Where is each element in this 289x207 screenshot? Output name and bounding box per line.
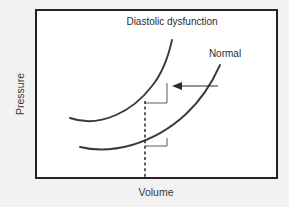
x-axis-label: Volume (138, 186, 173, 198)
plot-frame (36, 10, 277, 178)
figure-container: Pressure Volume Diastolic dysfunction No… (0, 0, 289, 207)
diastolic-dysfunction-label: Diastolic dysfunction (126, 16, 217, 27)
pressure-volume-chart: Pressure Volume Diastolic dysfunction No… (0, 0, 289, 207)
y-axis-label: Pressure (14, 73, 26, 115)
normal-label: Normal (209, 48, 241, 59)
